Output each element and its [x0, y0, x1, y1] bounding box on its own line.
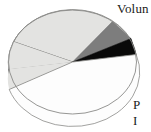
pie-chart-figure: Volun P I [0, 0, 151, 132]
slice-label-voluntary: Volun [117, 1, 149, 17]
pie-chart-graphic [0, 0, 151, 132]
slice-label-private: P [133, 97, 140, 113]
slice-label-insurance: I [133, 113, 138, 129]
